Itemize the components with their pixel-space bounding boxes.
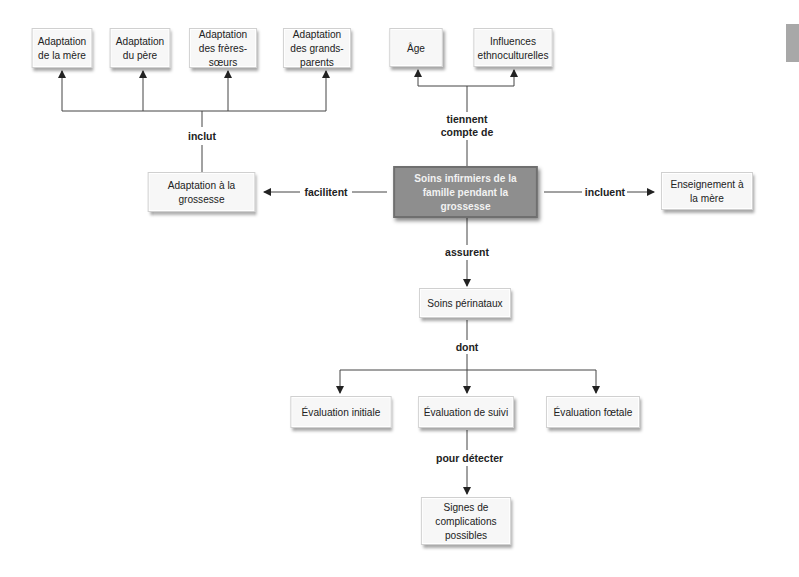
connector-lines bbox=[0, 0, 799, 577]
node-label: Soins infirmiers de la famille pendant l… bbox=[401, 171, 530, 213]
node-label: Évaluation fœtale bbox=[554, 405, 633, 419]
node-adaptation-freres-soeurs: Adaptation des frères-sœurs bbox=[189, 28, 257, 68]
link-label-assurent: assurent bbox=[444, 246, 490, 259]
link-label-inclut: inclut bbox=[186, 130, 218, 143]
node-label: Adaptation à la grossesse bbox=[165, 178, 239, 206]
node-label: Enseignement à la mère bbox=[670, 177, 744, 205]
node-label: Influences ethnoculturelles bbox=[474, 34, 551, 62]
node-influences-ethnoculturelles: Influences ethnoculturelles bbox=[473, 28, 552, 67]
node-label: Signes de complications possibles bbox=[431, 500, 501, 542]
concept-map: Adaptation de la mère Adaptation du père… bbox=[0, 0, 799, 577]
node-evaluation-suivi: Évaluation de suivi bbox=[418, 396, 514, 428]
link-label-text: tiennent compte de bbox=[441, 113, 494, 138]
page-edge-tab bbox=[786, 24, 799, 62]
node-age: Âge bbox=[389, 28, 442, 67]
link-label-pour-detecter: pour détecter bbox=[436, 452, 500, 465]
node-label: Soins périnataux bbox=[427, 296, 502, 310]
node-label: Évaluation initiale bbox=[302, 405, 381, 419]
link-label-dont: dont bbox=[454, 341, 480, 354]
node-evaluation-foetale: Évaluation fœtale bbox=[546, 396, 640, 428]
node-adaptation-pere: Adaptation du père bbox=[110, 28, 171, 68]
link-label-incluent: incluent bbox=[584, 186, 626, 199]
node-label: Adaptation du père bbox=[111, 34, 170, 62]
node-signes-complications: Signes de complications possibles bbox=[421, 497, 511, 545]
node-enseignement-mere: Enseignement à la mère bbox=[661, 172, 753, 210]
node-label: Évaluation de suivi bbox=[424, 405, 508, 419]
link-label-facilitent: facilitent bbox=[302, 186, 350, 199]
node-central-soins-infirmiers: Soins infirmiers de la famille pendant l… bbox=[393, 166, 537, 218]
link-label-tiennent-compte-de: tiennent compte de bbox=[436, 113, 498, 139]
node-adaptation-mere: Adaptation de la mère bbox=[32, 28, 93, 68]
node-evaluation-initiale: Évaluation initiale bbox=[290, 396, 391, 428]
node-label: Adaptation des grands-parents bbox=[284, 27, 350, 69]
node-label: Adaptation de la mère bbox=[33, 34, 92, 62]
node-soins-perinataux: Soins périnataux bbox=[419, 288, 511, 318]
node-label: Adaptation des frères-sœurs bbox=[190, 27, 256, 69]
node-label: Âge bbox=[407, 41, 425, 55]
node-adaptation-grossesse: Adaptation à la grossesse bbox=[148, 172, 256, 212]
node-adaptation-grands-parents: Adaptation des grands-parents bbox=[283, 28, 351, 68]
